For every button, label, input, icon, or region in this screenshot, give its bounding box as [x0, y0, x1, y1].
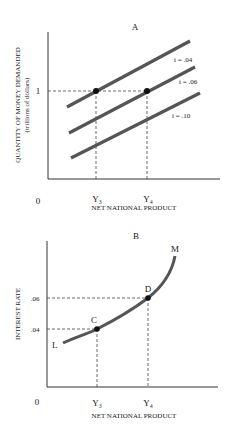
panel-b-xtick-y3: Y₃: [92, 398, 102, 408]
panel-b-xtick-y4: Y₄: [143, 398, 153, 408]
curve-label-m: M: [171, 244, 179, 254]
panel-b: B INTEREST RATE .06 .04 0 Y₃ Y₄ NET NATI…: [14, 231, 218, 420]
point-label-d: D: [145, 284, 152, 294]
point-y4-i06: [144, 88, 150, 94]
series-label-i-06: i = .06: [179, 78, 198, 86]
panel-a-title: A: [132, 22, 139, 32]
series-curve-lm: [63, 256, 175, 343]
series-line-i-10: [71, 93, 200, 158]
point-c: [94, 326, 100, 332]
point-d: [145, 295, 151, 301]
panel-a-origin: 0: [36, 196, 41, 206]
series-label-i-04: i = .04: [174, 56, 193, 64]
panel-a-xtick-y4: Y₄: [143, 194, 153, 204]
curve-label-l: L: [52, 340, 58, 350]
panel-a-ylabel: QUANTITY OF MONEY DEMANDED: [14, 47, 22, 163]
panel-b-title: B: [133, 231, 139, 241]
series-label-i-10: i = .10: [172, 112, 191, 120]
panel-a-ytick-1: 1: [36, 86, 41, 96]
panel-b-xlabel: NET NATIONAL PRODUCT: [92, 412, 178, 420]
panel-b-origin: 0: [35, 397, 40, 407]
panel-b-ylabel: INTEREST RATE: [14, 288, 22, 340]
panel-a: A QUANTITY OF MONEY DEMANDED (trillions …: [14, 22, 220, 212]
panel-b-ytick-06: .06: [31, 295, 40, 303]
point-label-c: C: [91, 315, 97, 325]
panel-a-ylabel-sub: (trillions of dollars): [23, 77, 31, 132]
series-line-i-04: [67, 41, 190, 107]
chart-canvas: A QUANTITY OF MONEY DEMANDED (trillions …: [0, 0, 228, 445]
panel-a-xlabel: NET NATIONAL PRODUCT: [92, 204, 178, 212]
panel-a-xtick-y3: Y₃: [92, 194, 102, 204]
series-line-i-06: [69, 67, 195, 133]
panel-b-ytick-04: .04: [31, 326, 40, 334]
point-y3-i04: [93, 88, 99, 94]
